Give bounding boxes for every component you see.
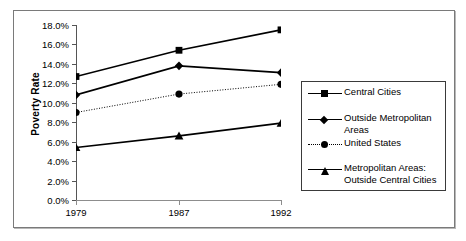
square-data-marker: [76, 73, 79, 80]
square-data-marker: [278, 26, 281, 33]
legend-label: United States: [342, 137, 401, 149]
circle-data-marker: [76, 109, 80, 116]
square-data-marker: [176, 47, 183, 54]
chart-screenshot: Poverty Rate 0.0%2.0%4.0%6.0%8.0%10.0%12…: [0, 0, 466, 241]
legend-entry-metropolitan-outside-central-cities: Metropolitan Areas: Outside Central Citi…: [308, 162, 436, 186]
series-lines: [76, 25, 281, 200]
chart-legend: Central Cities Outside Metropolitan Area…: [301, 81, 446, 191]
legend-label: Central Cities: [342, 86, 401, 98]
circle-marker-icon: [308, 139, 342, 151]
diamond-marker-icon: [308, 114, 342, 126]
circle-data-marker: [175, 90, 182, 97]
x-axis-tick-label: 1987: [168, 207, 189, 218]
y-axis-tick-label: 10.0%: [42, 97, 69, 108]
x-axis-tick: [76, 200, 77, 205]
x-axis-tick-label: 1979: [65, 207, 86, 218]
y-axis-tick-label: 4.0%: [47, 156, 69, 167]
square-marker-icon: [308, 88, 342, 100]
y-axis-tick-label: 18.0%: [42, 20, 69, 31]
chart-frame: Poverty Rate 0.0%2.0%4.0%6.0%8.0%10.0%12…: [13, 10, 455, 228]
x-axis-tick: [179, 200, 180, 205]
y-axis-tick-label: 0.0%: [47, 195, 69, 206]
plot-area: 0.0%2.0%4.0%6.0%8.0%10.0%12.0%14.0%16.0%…: [76, 25, 281, 200]
diamond-data-marker: [277, 68, 281, 77]
x-axis-tick: [281, 200, 282, 205]
y-axis-tick-label: 14.0%: [42, 58, 69, 69]
y-axis-tick-label: 16.0%: [42, 39, 69, 50]
triangle-marker-icon: [308, 164, 342, 176]
diamond-data-marker: [175, 61, 183, 70]
legend-label: Metropolitan Areas: Outside Central Citi…: [342, 162, 436, 185]
legend-entry-outside-metropolitan-areas: Outside Metropolitan Areas: [308, 112, 432, 136]
legend-entry-united-states: United States: [308, 137, 401, 161]
legend-label: Outside Metropolitan Areas: [342, 112, 432, 135]
y-axis-tick-label: 2.0%: [47, 175, 69, 186]
legend-entry-central-cities: Central Cities: [308, 86, 401, 110]
y-axis-tick-label: 8.0%: [47, 117, 69, 128]
diamond-data-marker: [76, 91, 80, 100]
x-axis-tick-label: 1992: [270, 207, 291, 218]
series-line-2: [76, 84, 281, 112]
circle-data-marker: [277, 81, 281, 88]
y-axis-tick-label: 6.0%: [47, 136, 69, 147]
y-axis-tick-label: 12.0%: [42, 78, 69, 89]
